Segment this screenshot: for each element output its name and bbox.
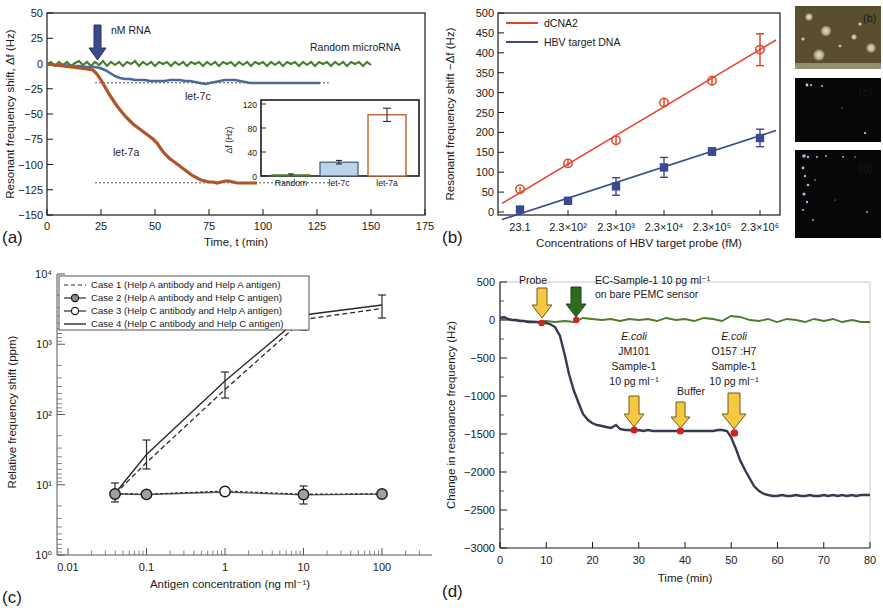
inset-ytick-2: 40 [247,148,257,158]
panel-c-legend-item-0: Case 1 (Help A antibody and Help A antig… [91,279,280,290]
panel-d-xtick-8: 80 [864,554,876,566]
panel-d-annotation-jm101-3: 10 pg ml⁻¹ [609,375,659,387]
micrograph-d-label: (d) [859,162,872,174]
panel-d-xtick-6: 60 [771,554,783,566]
panel-b-y-axis: 500 450 400 350 300 250 200 150 100 50 0 [476,7,504,218]
micrograph-d-svg: (d) [795,150,881,238]
inset-ytick-0: 120 [243,100,258,110]
micrograph-c-svg: (c) [795,78,881,142]
panel-b-plot-frame [498,13,780,215]
panel-b-legend-item-0: dCNA2 [544,17,578,29]
panel-d-annotation-jm101-1: JM101 [618,345,650,357]
micrograph-d: (d) [795,150,881,238]
panel-a-annotation-let7c: let-7c [185,90,211,102]
panel-a-xtick-0: 0 [44,220,50,232]
panel-c-xlabel: Antigen concentration (ng ml⁻¹) [150,578,310,590]
panel-a-ytick-5: −75 [24,133,43,145]
panel-d-ytick-2: −500 [470,352,495,364]
panel-a-ytick-6: −100 [18,159,43,171]
micrograph-b: (b) [795,6,881,69]
panel-b-xtick-4: 2.3×10⁵ [693,221,732,233]
panel-c-legend: Case 1 (Help A antibody and Help A antig… [59,276,309,330]
panel-b-ytick-9: 50 [482,186,494,198]
panel-c-x-ticks [68,548,419,555]
panel-b-xlabel: Concentrations of HBV target probe (fM) [536,237,742,249]
panel-d-xtick-2: 20 [586,554,598,566]
panel-a-ytick-2: 0 [37,58,43,70]
panel-b-xtick-1: 2.3×10² [549,221,587,233]
panel-d-annotation-o157-0: E.coli [721,330,747,342]
panel-a-annotation-let7a: let-7a [113,146,139,158]
inset-ytick-1: 80 [247,124,257,134]
panel-d-xtick-4: 40 [679,554,691,566]
panel-a: 50 25 0 −25 −50 −75 −100 −125 −150 0 25 … [0,0,440,258]
panel-c-xtick-4: 100 [373,561,391,573]
panel-b-xtick-5: 2.3×10⁶ [741,221,779,233]
panel-d-annotation-ec-line1: EC-Sample-1 10 pg ml⁻¹ [595,274,711,286]
panel-c-ytick-2: 10² [36,409,52,421]
panel-b-ytick-8: 100 [476,166,494,178]
panel-d-annotation-o157-2: Sample-1 [712,360,757,372]
panel-b-label: (b) [442,228,463,248]
panel-b-ytick-0: 500 [476,7,494,19]
panel-a-annotation-arrow: nM RNA [111,24,151,36]
panel-d-series-control [500,316,870,322]
panel-d-annotation-probe: Probe [519,274,547,286]
panel-b-ytick-6: 200 [476,126,494,138]
panel-a-xtick-1: 25 [95,220,107,232]
panel-d-xtick-3: 30 [633,554,645,566]
panel-b-xtick-0: 23.1 [509,221,530,233]
panel-d-annotation-jm101-2: Sample-1 [612,360,657,372]
panel-d-annotation-buffer: Buffer [677,385,705,397]
panel-a-xtick-2: 50 [149,220,161,232]
panel-d-ylabel: Change in resonance frequency (Hz) [445,321,457,509]
panel-a-x-axis: 0 25 50 75 100 125 150 175 [44,209,434,232]
panel-d-xtick-0: 0 [497,554,503,566]
panel-a-xtick-6: 150 [362,220,380,232]
panel-b-fit-dcna2 [502,40,776,203]
panel-d-xtick-5: 50 [725,554,737,566]
panel-a-y-axis: 50 25 0 −25 −50 −75 −100 −125 −150 [18,7,53,221]
panel-a-ytick-1: 25 [31,32,43,44]
panel-c-ytick-4: 10⁰ [35,549,52,561]
panel-d-annotation-jm101-0: E.coli [621,330,647,342]
panel-a-ytick-7: −125 [18,184,43,196]
panel-d-xtick-7: 70 [818,554,830,566]
panel-c-ytick-0: 10⁴ [35,268,52,280]
panel-d-ytick-1: 0 [489,314,495,326]
panel-a-ytick-8: −150 [18,209,43,221]
ec-sample-arrow-icon [566,287,586,317]
panel-d-svg: 500 0 −500 −1000 −1500 −2000 −2500 −3000… [440,262,883,612]
panel-c-ytick-3: 10¹ [36,479,52,491]
inset-cat-0: Random [275,178,307,188]
panel-b: 500 450 400 350 300 250 200 150 100 50 0… [440,0,790,258]
inset-cat-1: let-7c [328,178,350,188]
nm-rna-arrow-icon [89,25,106,60]
panel-c: 10⁴ 10³ 10² 10¹ 10⁰ [0,262,440,612]
panel-b-ytick-3: 350 [476,67,494,79]
panel-d-x-ticks [500,542,870,548]
panel-c-xtick-2: 1 [222,561,228,573]
panel-a-label: (a) [2,228,23,248]
panel-a-inset: 120 80 40 0 Δf (Hz) Random let-7c let-7a [224,100,419,189]
panel-d-annotation-ec-line2: on bare PEMC sensor [595,288,699,300]
micrograph-b-label: (b) [863,12,876,24]
panel-b-series-dcna2 [516,34,764,194]
panel-a-xtick-4: 100 [254,220,272,232]
inset-ylabel: Δf (Hz) [224,126,234,153]
panel-b-series-hbv [517,129,765,213]
o157-arrow-icon [722,393,746,429]
panel-d-ytick-6: −2500 [464,504,495,516]
panel-d: 500 0 −500 −1000 −1500 −2000 −2500 −3000… [440,262,883,612]
buffer-arrow-icon [671,402,690,428]
panel-b-xtick-3: 2.3×10⁴ [645,221,684,233]
micrograph-b-svg: (b) [795,6,881,69]
panel-d-label: (d) [442,582,463,602]
panel-d-annotation-o157-3: 10 pg ml⁻¹ [709,375,759,387]
panel-a-annotation-random: Random microRNA [310,41,400,53]
panel-c-legend-item-2: Case 3 (Help C antibody and Help A antig… [91,305,282,316]
panel-c-svg: 10⁴ 10³ 10² 10¹ 10⁰ [0,262,440,612]
panel-d-annotation-o157-1: O157 :H7 [712,345,757,357]
panel-a-svg: 50 25 0 −25 −50 −75 −100 −125 −150 0 25 … [0,0,440,258]
panel-a-ytick-4: −50 [24,108,43,120]
